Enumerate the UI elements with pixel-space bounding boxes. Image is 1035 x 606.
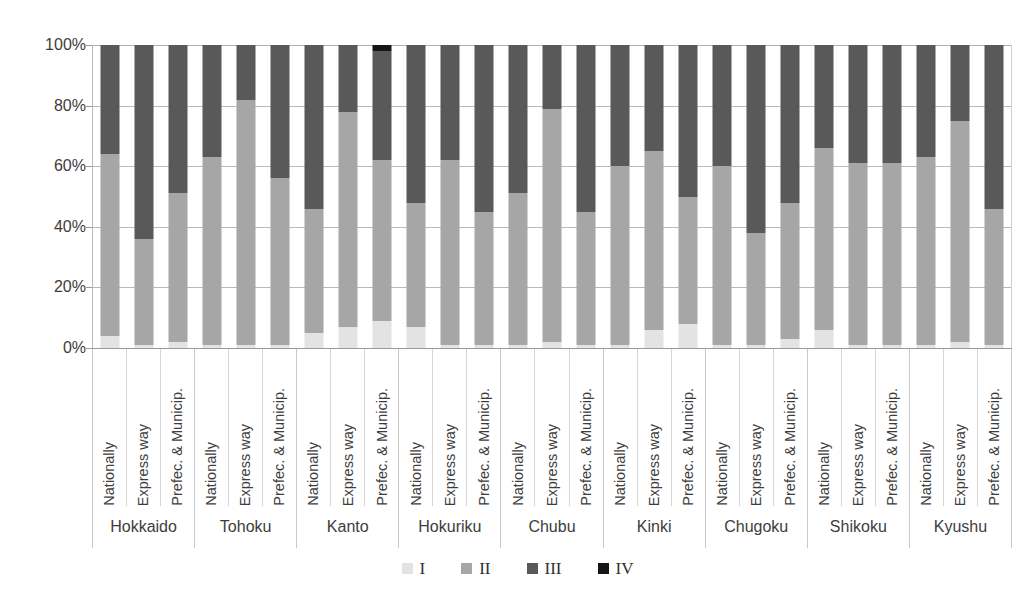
bar-slot — [365, 45, 399, 348]
legend: IIIIIIIV — [0, 560, 1035, 577]
bar-segment-ii — [305, 209, 324, 333]
stacked-bar[interactable] — [951, 45, 970, 348]
x-axis-subcategory-label: Express way — [545, 420, 560, 506]
legend-swatch-icon — [461, 563, 472, 574]
legend-item[interactable]: II — [461, 560, 490, 577]
bar-segment-iii — [577, 45, 596, 212]
stacked-bar[interactable] — [917, 45, 936, 348]
bar-slot — [569, 45, 603, 348]
stacked-bar[interactable] — [985, 45, 1004, 348]
y-tick-label: 80% — [40, 98, 86, 114]
bar-segment-ii — [815, 148, 834, 330]
stacked-bar[interactable] — [169, 45, 188, 348]
x-axis-subcategory: Express way — [433, 349, 467, 506]
legend-item[interactable]: IV — [598, 560, 634, 577]
legend-item[interactable]: III — [527, 560, 562, 577]
stacked-bar[interactable] — [373, 45, 392, 348]
bar-segment-iii — [849, 45, 868, 163]
stacked-bar[interactable] — [849, 45, 868, 348]
bar-group — [909, 45, 1011, 348]
bar-slot — [603, 45, 637, 348]
bar-slot — [739, 45, 773, 348]
stacked-bar[interactable] — [509, 45, 528, 348]
bar-segment-iii — [713, 45, 732, 166]
stacked-bar[interactable] — [645, 45, 664, 348]
x-axis-subcategory-label: Prefec. & Municip. — [987, 384, 1002, 506]
bar-segment-ii — [237, 100, 256, 345]
x-axis-region-label: Shikoku — [808, 506, 910, 548]
y-tick-label: 100% — [40, 37, 86, 53]
stacked-bar[interactable] — [237, 45, 256, 348]
stacked-bar[interactable] — [339, 45, 358, 348]
stacked-bar[interactable] — [475, 45, 494, 348]
y-tick-label: 60% — [40, 158, 86, 174]
x-axis-subcategory-label: Nationally — [511, 438, 526, 506]
bar-segment-ii — [611, 166, 630, 345]
bar-segment-i — [645, 330, 664, 348]
bar-segment-ii — [849, 163, 868, 345]
bar-segment-iii — [645, 45, 664, 151]
stacked-bar[interactable] — [101, 45, 120, 348]
x-axis-subcategory: Express way — [740, 349, 774, 506]
x-axis-subcategory-label: Express way — [136, 420, 151, 506]
bar-group — [399, 45, 501, 348]
x-axis-subcategory: Express way — [638, 349, 672, 506]
legend-swatch-icon — [527, 563, 538, 574]
stacked-bar[interactable] — [135, 45, 154, 348]
x-axis-subcategory: Prefec. & Municip. — [774, 349, 807, 506]
bar-segment-iii — [679, 45, 698, 197]
x-axis-group: NationallyExpress wayPrefec. & Municip. — [399, 349, 501, 506]
bar-slot — [297, 45, 331, 348]
stacked-bar[interactable] — [543, 45, 562, 348]
legend-label: II — [479, 560, 490, 577]
bar-segment-iii — [339, 45, 358, 112]
stacked-bar[interactable] — [441, 45, 460, 348]
x-axis-group: NationallyExpress wayPrefec. & Municip. — [706, 349, 808, 506]
bar-segment-iii — [815, 45, 834, 148]
stacked-bar[interactable] — [305, 45, 324, 348]
bar-group — [807, 45, 909, 348]
x-axis-group: NationallyExpress wayPrefec. & Municip. — [604, 349, 706, 506]
x-axis-region-label: Chubu — [501, 506, 603, 548]
x-axis-subcategory: Prefec. & Municip. — [978, 349, 1011, 506]
stacked-bar[interactable] — [679, 45, 698, 348]
stacked-bar[interactable] — [577, 45, 596, 348]
stacked-bar[interactable] — [815, 45, 834, 348]
bar-segment-iii — [271, 45, 290, 178]
bar-slot — [671, 45, 705, 348]
stacked-bar[interactable] — [883, 45, 902, 348]
legend-item[interactable]: I — [402, 560, 426, 577]
bar-segment-ii — [203, 157, 222, 345]
bar-segment-ii — [985, 209, 1004, 345]
legend-label: I — [420, 560, 426, 577]
stacked-bar[interactable] — [203, 45, 222, 348]
stacked-bar[interactable] — [781, 45, 800, 348]
stacked-bar[interactable] — [747, 45, 766, 348]
bar-segment-iii — [883, 45, 902, 163]
stacked-bar[interactable] — [713, 45, 732, 348]
bar-slot — [501, 45, 535, 348]
x-axis-subcategory: Nationally — [604, 349, 638, 506]
bar-segment-iii — [135, 45, 154, 239]
bar-segment-iii — [781, 45, 800, 203]
stacked-bar-chart: 0%20%40%60%80%100% NationallyExpress way… — [0, 0, 1035, 606]
stacked-bar[interactable] — [271, 45, 290, 348]
x-axis-group: NationallyExpress wayPrefec. & Municip. — [910, 349, 1012, 506]
legend-swatch-icon — [402, 563, 413, 574]
bar-segment-iii — [203, 45, 222, 157]
bar-segment-ii — [101, 154, 120, 336]
bar-segment-i — [373, 321, 392, 348]
bar-segment-ii — [509, 193, 528, 345]
x-axis-subcategory: Express way — [127, 349, 161, 506]
x-axis-region-label: Hokkaido — [92, 506, 195, 548]
bar-segment-iii — [441, 45, 460, 160]
bar-segment-iii — [951, 45, 970, 121]
stacked-bar[interactable] — [407, 45, 426, 348]
bar-group — [603, 45, 705, 348]
x-axis-subcategory-label: Prefec. & Municip. — [170, 384, 185, 506]
stacked-bar[interactable] — [611, 45, 630, 348]
x-axis-subcategory: Nationally — [297, 349, 331, 506]
bar-segment-ii — [577, 212, 596, 345]
x-axis-subcategory: Nationally — [910, 349, 944, 506]
x-axis-subcategory-label: Prefec. & Municip. — [885, 384, 900, 506]
